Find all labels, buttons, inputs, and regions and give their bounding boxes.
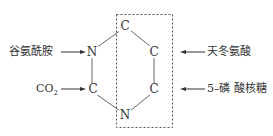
atom-n-left: N xyxy=(86,46,98,58)
atom-c-left-lower: C xyxy=(87,83,99,95)
label-co2-text: CO xyxy=(36,82,53,95)
atom-c-right-lower: C xyxy=(148,83,160,95)
label-ribose-5-phosphate: 5–磷 酸核糖 xyxy=(207,83,267,95)
label-co2: CO2 xyxy=(36,83,58,99)
atom-n-bottom: N xyxy=(119,109,131,121)
atom-c-top: C xyxy=(119,20,131,32)
diagram-lines xyxy=(0,0,273,136)
label-aspartate: 天冬氨酸 xyxy=(207,46,251,58)
atom-c-right-upper: C xyxy=(148,46,160,58)
label-co2-subscript: 2 xyxy=(53,89,57,97)
label-glutamine: 谷氨酰胺 xyxy=(9,46,53,58)
